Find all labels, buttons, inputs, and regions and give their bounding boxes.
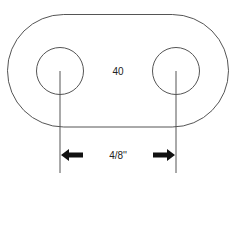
center-label: 40 [112, 66, 123, 77]
dimension-label: 4/8'' [109, 150, 127, 161]
right-arrow-icon [153, 149, 175, 161]
left-arrow-icon [61, 149, 83, 161]
